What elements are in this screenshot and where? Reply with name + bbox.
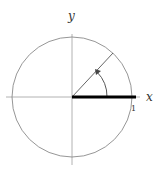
x-axis-label: x	[146, 90, 153, 104]
unit-label: 1	[131, 104, 136, 113]
angle-arc	[97, 72, 107, 97]
y-axis-label: y	[67, 9, 75, 23]
unit-circle-diagram: y x 1	[0, 0, 166, 171]
arrowhead-icon	[95, 69, 101, 75]
